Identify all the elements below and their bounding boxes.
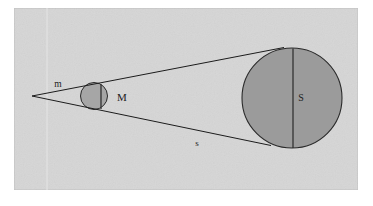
large-circle-S xyxy=(242,48,342,148)
shadow-cone-diagram: m M S s xyxy=(0,0,373,206)
label-M: M xyxy=(117,91,127,103)
small-circle-M xyxy=(81,83,108,110)
label-S: S xyxy=(298,92,304,103)
figure-root: m M S s xyxy=(0,0,373,206)
label-s: s xyxy=(195,138,199,148)
label-m: m xyxy=(54,79,62,89)
